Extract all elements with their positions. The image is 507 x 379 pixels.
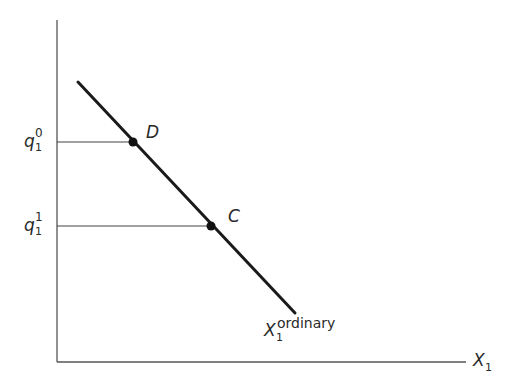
curve-label-sub: 1 xyxy=(276,332,283,343)
x-axis-label-sub: 1 xyxy=(485,362,492,373)
point-d-label: D xyxy=(146,124,159,141)
y-label-q1: q11 xyxy=(24,217,35,234)
diagram-canvas xyxy=(0,0,507,379)
point-d-name: D xyxy=(146,122,159,142)
y-label-q0-sub: 1 xyxy=(35,142,42,153)
x-axis-label-base: X xyxy=(473,350,485,370)
y-label-q1-sub: 1 xyxy=(35,226,42,237)
curve-label-base: X xyxy=(264,320,276,340)
point-c-marker xyxy=(207,222,216,231)
ordinary-demand-curve xyxy=(78,82,295,313)
y-label-q0-sup: 0 xyxy=(35,127,43,139)
point-d-marker xyxy=(129,138,138,147)
y-label-q1-sup: 1 xyxy=(35,211,43,223)
point-c-label: C xyxy=(228,208,240,225)
y-label-q0: q01 xyxy=(24,133,35,150)
curve-label: X1ordinary xyxy=(264,322,276,339)
y-label-q0-base: q xyxy=(24,131,35,151)
curve-label-sup: ordinary xyxy=(277,316,335,330)
point-c-name: C xyxy=(228,206,240,226)
x-axis-label: X1 xyxy=(473,352,485,369)
y-label-q1-base: q xyxy=(24,215,35,235)
